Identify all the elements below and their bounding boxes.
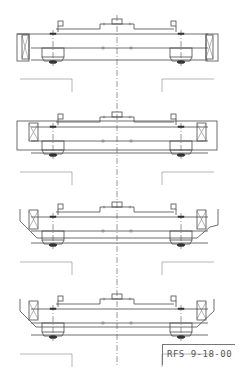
title-block-label: RFS 9-18-00 bbox=[167, 349, 232, 359]
engineering-drawing bbox=[0, 0, 239, 370]
view-1 bbox=[17, 19, 218, 92]
view-3 bbox=[20, 202, 218, 275]
